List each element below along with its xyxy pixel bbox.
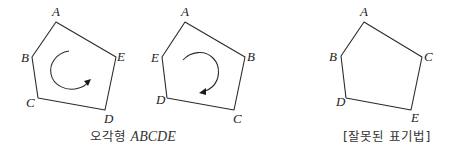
pentagon-1-vertex-label: D [103, 111, 114, 126]
pentagon-2-vertex-label: D [155, 92, 166, 107]
pentagon-1-outline [32, 22, 116, 110]
counterclockwise-arrow-icon [51, 51, 91, 89]
caption-incorrect-label: [잘못된 표기법] [343, 129, 431, 144]
pentagon-2-vertex-label: E [150, 50, 159, 65]
caption-pentagon-abcde: 오각형ABCDE [90, 126, 176, 145]
pentagon-1-vertex-label: A [51, 4, 60, 19]
pentagon-1-vertex-label: E [116, 49, 125, 64]
caption-incorrect-notation: [잘못된 표기법] [343, 126, 431, 145]
pentagon-3-vertex-label: E [410, 110, 419, 125]
pentagon-2: A E D C B [150, 4, 255, 126]
pentagon-3-vertex-label: B [329, 49, 337, 64]
pentagon-2-vertex-label: C [233, 111, 242, 126]
pentagon-3-outline [341, 22, 422, 110]
pentagon-3-vertex-label: A [359, 4, 368, 19]
pentagon-1-vertex-label: C [26, 95, 35, 110]
pentagon-1: A B C D E [21, 4, 125, 126]
caption-math-label: ABCDE [131, 129, 176, 144]
diagram-canvas: A B C D E A E D C B [0, 0, 456, 154]
clockwise-arrow-icon [183, 53, 219, 95]
pentagon-2-outline [162, 22, 245, 110]
pentagon-1-vertex-label: B [21, 50, 29, 65]
pentagon-3: A B D E C [329, 4, 433, 125]
caption-korean-label: 오각형 [90, 129, 127, 144]
pentagon-2-vertex-label: A [180, 4, 189, 19]
pentagon-3-vertex-label: C [424, 49, 433, 64]
pentagon-3-vertex-label: D [335, 94, 346, 109]
pentagon-2-vertex-label: B [247, 49, 255, 64]
